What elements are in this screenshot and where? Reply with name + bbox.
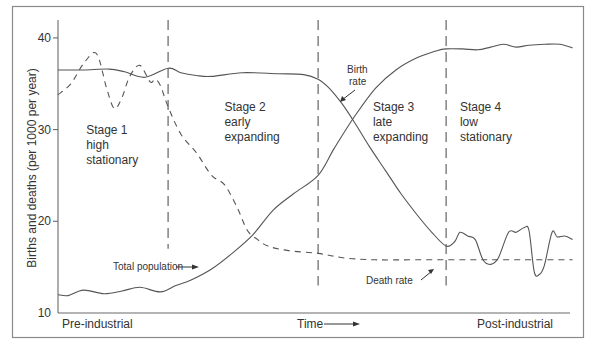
birth-rate-label-line2: rate xyxy=(349,76,367,87)
birth-rate-arrowhead xyxy=(340,96,346,102)
stage-label-line: expanding xyxy=(373,130,428,144)
stage-label-line: stationary xyxy=(460,130,512,144)
stage-label-line: high xyxy=(86,138,109,152)
death-rate-annotation: Death rate xyxy=(366,269,434,286)
stage-label-line: early xyxy=(224,115,250,129)
death-rate-label: Death rate xyxy=(366,275,413,286)
stage-label-3: Stage 3lateexpanding xyxy=(373,100,428,144)
birth-rate-label-line1: Birth xyxy=(347,64,368,75)
series-lines xyxy=(58,44,573,296)
stage-label-line: late xyxy=(373,115,393,129)
stage-dividers xyxy=(168,20,446,285)
stage-labels: Stage 1highstationaryStage 2earlyexpandi… xyxy=(86,100,512,167)
birth-rate-annotation: Birth rate xyxy=(340,64,368,102)
x-caption-pre-industrial: Pre-industrial xyxy=(62,317,133,331)
total-population-annotation: Total population xyxy=(113,261,199,272)
y-tick-label: 10 xyxy=(38,306,52,320)
x-axis-label: Time xyxy=(297,317,324,331)
y-axis-label: Births and deaths (per 1000 per year) xyxy=(25,68,39,267)
stage-label-line: stationary xyxy=(86,153,138,167)
stage-label-line: low xyxy=(460,115,478,129)
stage-label-line: Stage 4 xyxy=(460,100,502,114)
stage-label-line: Stage 2 xyxy=(224,100,266,114)
y-tick-label: 40 xyxy=(38,31,52,45)
demographic-transition-chart: 10203040 Births and deaths (per 1000 per… xyxy=(0,0,590,349)
stage-label-1: Stage 1highstationary xyxy=(86,123,138,167)
total-population-line xyxy=(58,44,573,296)
total-population-arrowhead xyxy=(192,265,199,270)
y-ticks: 10203040 xyxy=(38,31,58,320)
stage-label-line: expanding xyxy=(224,130,279,144)
total-population-label: Total population xyxy=(113,261,183,272)
y-tick-label: 20 xyxy=(38,214,52,228)
chart-frame xyxy=(13,7,584,338)
stage-label-line: Stage 1 xyxy=(86,123,128,137)
stage-label-2: Stage 2earlyexpanding xyxy=(224,100,279,144)
time-arrowhead xyxy=(353,322,360,327)
stage-label-line: Stage 3 xyxy=(373,100,415,114)
y-tick-label: 30 xyxy=(38,123,52,137)
x-caption-post-industrial: Post-industrial xyxy=(477,317,553,331)
stage-label-4: Stage 4lowstationary xyxy=(460,100,512,144)
